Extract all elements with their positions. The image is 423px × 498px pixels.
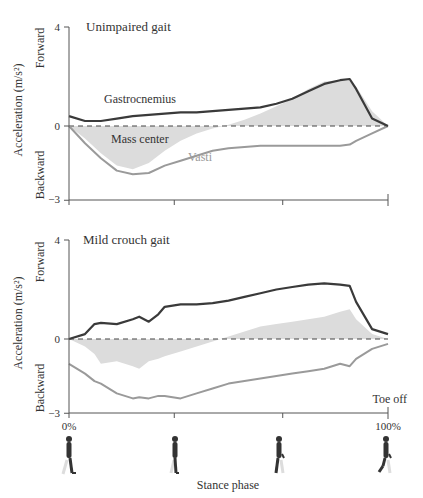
forward-label: Forward [33,242,47,283]
x-tick-0-percent: 0% [62,420,77,432]
mild-crouch-gait-panel: Mild crouch gait Toe off 4 0 −3 Forward … [11,232,407,419]
y-tick-4: 4 [55,234,61,246]
mass-center-label: Mass center [111,132,169,146]
panel-title: Mild crouch gait [83,232,170,247]
y-tick-0: 0 [55,120,61,132]
toe-off-label: Toe off [372,392,407,406]
gait-acceleration-figure: Unimpaired gait Gastrocnemius Mass cente… [0,0,423,498]
walking-figure-midstance-icon [171,436,179,473]
backward-label: Backward [33,151,47,200]
vasti-label: Vasti [188,150,213,164]
y-axis-label: Acceleration (m/s²) [11,63,25,156]
forward-label: Forward [33,28,47,69]
y-tick-minus3: −3 [48,407,60,419]
walking-figure-late-stance-icon [276,436,284,473]
y-tick-4: 4 [55,21,61,33]
y-tick-0: 0 [55,333,61,345]
x-tick-100-percent: 100% [375,420,401,432]
walking-figure-heel-strike-icon [63,436,76,474]
x-axis-label: Stance phase [197,478,259,492]
gastrocnemius-label: Gastrocnemius [104,92,176,106]
y-tick-minus3: −3 [48,193,60,205]
panel-title: Unimpaired gait [86,19,171,34]
unimpaired-gait-panel: Unimpaired gait Gastrocnemius Mass cente… [11,19,388,206]
backward-label: Backward [33,364,47,413]
y-axis-label: Acceleration (m/s²) [11,276,25,369]
walking-figure-toe-off-icon [379,436,391,473]
